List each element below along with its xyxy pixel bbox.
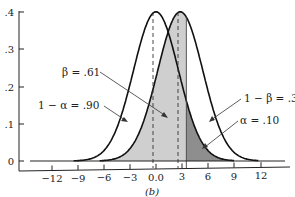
x-tick-label: 9	[231, 171, 237, 182]
x-tick-label: −12	[41, 173, 62, 184]
x-tick-label: 3	[179, 171, 185, 182]
y-tick-label: .1	[4, 119, 14, 130]
power-chart: .4 .3 .2 .1 0 −12 −9 −6 −3 0.0 3 6 9 12 …	[0, 0, 295, 197]
one-minus-beta-leader	[211, 99, 241, 120]
x-axis	[19, 167, 290, 171]
x-tick-label: 6	[205, 171, 211, 182]
x-tick-label: 0.0	[148, 172, 164, 183]
one-minus-alpha-label: 1 − α = .90	[38, 99, 99, 111]
y-tick-label: 0	[8, 156, 14, 167]
y-tick-label: .4	[4, 7, 14, 18]
alpha-label: α = .10	[240, 114, 279, 126]
y-tick-label: .3	[4, 44, 14, 55]
one-minus-beta-arrow-icon	[209, 116, 215, 122]
one-minus-beta-label: 1 − β = .39	[244, 92, 295, 104]
x-tick-label: −3	[123, 172, 138, 183]
x-tick-label: −9	[71, 173, 86, 184]
y-tick-label: .2	[4, 82, 14, 93]
beta-label: β = .61	[62, 66, 100, 78]
figure-caption: (b)	[145, 186, 159, 197]
x-tick-label: 12	[255, 170, 268, 181]
alpha-leader	[205, 121, 238, 147]
y-ticks	[19, 12, 24, 161]
x-tick-label: −6	[97, 172, 112, 183]
